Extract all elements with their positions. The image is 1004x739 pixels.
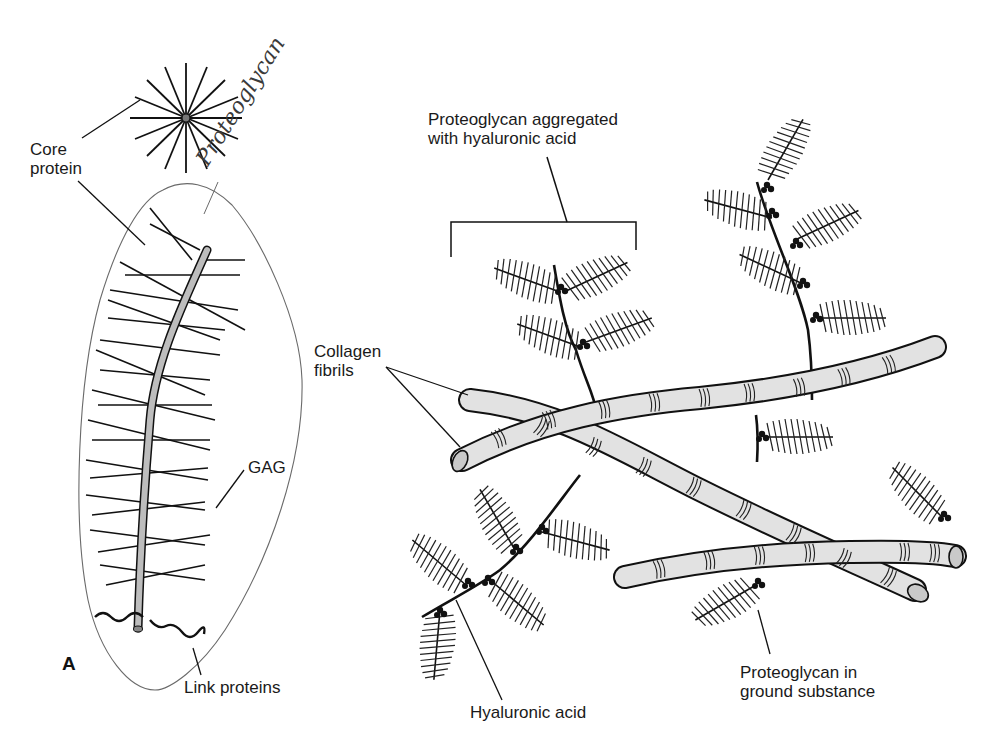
label-hyaluronic-acid: Hyaluronic acid: [470, 703, 586, 722]
label-core-protein: Core protein: [30, 140, 82, 178]
panel-letter: A: [62, 653, 76, 675]
label-collagen-fibrils: Collagen fibrils: [314, 342, 381, 380]
label-ground-substance: Proteoglycan in ground substance: [740, 663, 875, 701]
label-aggregate: Proteoglycan aggregated with hyaluronic …: [428, 110, 618, 148]
label-link-proteins: Link proteins: [184, 678, 280, 697]
gag-chains: [86, 208, 245, 585]
label-gag: GAG: [248, 458, 286, 477]
collagen-fibril-2: [625, 546, 963, 577]
pencil-outline: [79, 184, 302, 690]
